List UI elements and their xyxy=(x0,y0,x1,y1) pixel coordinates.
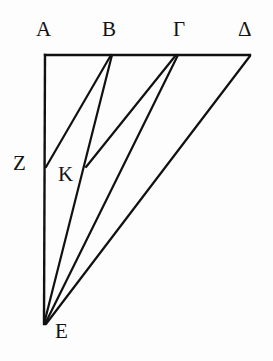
segment-G-E xyxy=(45,55,178,324)
vertex-label-K: K xyxy=(58,164,73,185)
segment-A-E xyxy=(44,55,45,324)
vertex-label-Z: Z xyxy=(13,153,26,174)
geometry-canvas xyxy=(0,0,273,361)
vertex-label-A: A xyxy=(36,19,51,40)
vertex-label-B: B xyxy=(102,19,116,40)
segment-D-E xyxy=(46,56,250,324)
segment-B-Z xyxy=(46,55,111,167)
vertex-label-gamma: Γ xyxy=(173,19,185,40)
geometry-figure: A B Γ Δ Z K E xyxy=(0,0,273,361)
vertex-label-E: E xyxy=(55,321,68,342)
vertex-label-delta: Δ xyxy=(238,19,252,40)
